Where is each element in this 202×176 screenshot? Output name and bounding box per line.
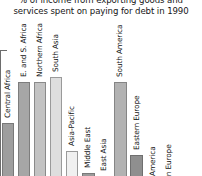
bar-northern-africa: Northern Africa — [34, 82, 47, 176]
y-axis-tick — [0, 96, 1, 97]
bar-label: Western Europe — [165, 145, 172, 176]
bar-label: South America — [117, 25, 124, 77]
chart-title-line-1: % of income from exporting goods and — [0, 0, 202, 6]
chart-figure: % of income from exporting goods and ser… — [0, 0, 202, 176]
bar-label: East Asia — [101, 138, 108, 170]
bar-label: North America — [149, 147, 156, 176]
bar-label: South Asia — [52, 35, 59, 73]
y-axis-top-tick — [0, 50, 7, 51]
plot-area: Central AfricaE. and S. AfricaNorthern A… — [0, 24, 202, 176]
bar-label: Central Africa — [4, 70, 11, 118]
bar-label: Middle East — [85, 127, 92, 168]
chart-title-line-2: services spent on paying for debt in 199… — [0, 6, 202, 17]
bar-label: E. and S. Africa — [20, 23, 27, 77]
chart-title: % of income from exporting goods and ser… — [0, 0, 202, 16]
y-axis-tick — [0, 119, 1, 120]
bar-middle-east: Middle East — [82, 173, 95, 176]
bar-label: Northern Africa — [36, 23, 43, 77]
y-axis-tick — [0, 73, 1, 74]
y-axis-tick — [0, 50, 1, 51]
bar-south-america: South America — [114, 82, 127, 176]
bar-e-and-s-africa: E. and S. Africa — [18, 82, 31, 176]
bar-label: Asia-Pacific — [68, 106, 75, 146]
bar-south-asia: South Asia — [50, 77, 63, 176]
bar-eastern-europe: Eastern Europe — [130, 155, 143, 176]
bar-central-africa: Central Africa — [2, 123, 15, 176]
bar-label: Eastern Europe — [133, 96, 140, 150]
bar-asia-pacific: Asia-Pacific — [66, 151, 79, 176]
